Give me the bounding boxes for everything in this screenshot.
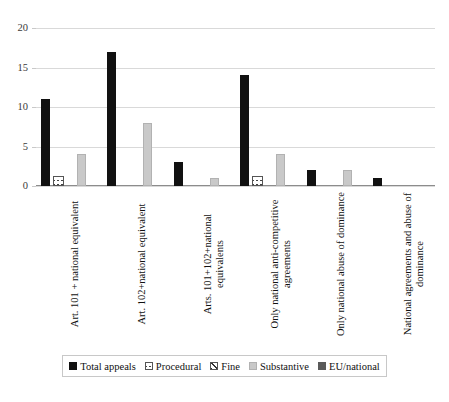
- x-axis-category: Only national abuse of dominance: [302, 190, 369, 340]
- bar-group: [103, 28, 170, 186]
- bar-total-appeals: [307, 170, 316, 186]
- legend-item[interactable]: Substantive: [249, 361, 309, 372]
- x-axis-category: National agreements and abuse of dominan…: [369, 190, 436, 340]
- x-axis-category-label: National agreements and abuse of dominan…: [402, 190, 425, 338]
- x-axis-category: Arts. 101+102+national equivalents: [169, 190, 236, 340]
- x-axis-category: Only national anti-competitive agreement…: [236, 190, 303, 340]
- legend-item[interactable]: Procedural: [145, 361, 201, 372]
- x-axis-category-label: Art. 102+national equivalent: [136, 190, 148, 338]
- legend-swatch-icon: [69, 362, 77, 370]
- bar-substantive: [210, 178, 219, 186]
- x-axis-category-label: Art. 101 + national equivalent: [69, 190, 81, 338]
- legend-swatch-icon: [145, 362, 153, 370]
- x-axis-category-label: Only national anti-competitive agreement…: [269, 190, 292, 338]
- x-axis-category: Art. 101 + national equivalent: [36, 190, 103, 340]
- bar-substantive: [143, 123, 152, 186]
- y-axis-tick-label: 15: [0, 63, 28, 73]
- bar-group: [36, 28, 103, 186]
- legend-label: Fine: [221, 361, 240, 372]
- legend-label: Substantive: [260, 361, 309, 372]
- legend-item[interactable]: EU/national: [318, 361, 380, 372]
- chart-legend: Total appealsProceduralFineSubstantiveEU…: [62, 355, 387, 377]
- bar-total-appeals: [41, 99, 50, 186]
- bar-group: [302, 28, 369, 186]
- legend-swatch-icon: [249, 362, 257, 370]
- bar-total-appeals: [373, 178, 382, 186]
- legend-swatch-icon: [210, 362, 218, 370]
- legend-item[interactable]: Fine: [210, 361, 240, 372]
- bar-substantive: [77, 154, 86, 186]
- y-axis-tick-label: 10: [0, 102, 28, 112]
- legend-label: Total appeals: [80, 361, 136, 372]
- bar-total-appeals: [107, 52, 116, 186]
- x-axis-category-label: Only national abuse of dominance: [335, 190, 347, 338]
- bar-group: [369, 28, 436, 186]
- legend-label: Procedural: [156, 361, 201, 372]
- legend-swatch-icon: [318, 362, 326, 370]
- bar-procedural: [252, 176, 263, 186]
- legend-item[interactable]: Total appeals: [69, 361, 136, 372]
- gridline: [36, 186, 435, 187]
- x-axis-category: Art. 102+national equivalent: [103, 190, 170, 340]
- y-axis-tick-label: 5: [0, 142, 28, 152]
- legend-label: EU/national: [329, 361, 380, 372]
- y-axis-tick-label: 0: [0, 181, 28, 191]
- x-axis-category-label: Arts. 101+102+national equivalents: [202, 190, 225, 338]
- bar-total-appeals: [174, 162, 183, 186]
- y-axis-tick-label: 20: [0, 23, 28, 33]
- bar-substantive: [343, 170, 352, 186]
- y-axis: 05101520: [0, 28, 32, 186]
- bar-substantive: [276, 154, 285, 186]
- bar-group: [236, 28, 303, 186]
- plot-area: [36, 28, 435, 186]
- bar-procedural: [53, 176, 64, 186]
- bar-chart: 05101520 Art. 101 + national equivalentA…: [0, 0, 449, 402]
- bar-total-appeals: [240, 75, 249, 186]
- bar-group: [169, 28, 236, 186]
